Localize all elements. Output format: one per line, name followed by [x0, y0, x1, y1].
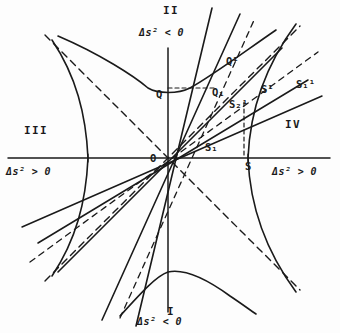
point-label-q-prime: Q¹ — [226, 55, 239, 67]
point-label-s-prime: S¹ — [261, 83, 274, 95]
interval-label-top: Δs² < 0 — [139, 27, 184, 38]
point-label-q1: Q₁ — [212, 86, 225, 98]
quadrant-label-right: IV — [285, 118, 301, 131]
line-shallow-b — [22, 96, 322, 227]
point-label-s: S — [245, 160, 251, 172]
quadrant-label-top: II — [163, 4, 179, 17]
point-label-s1: S₁ — [205, 141, 218, 153]
figure-canvas: II I III IV Δs² < 0 Δs² < 0 Δs² > 0 Δs² … — [0, 0, 340, 333]
point-label-q: Q — [156, 88, 162, 100]
quadrant-label-left: III — [24, 124, 48, 137]
asymptote-positive-slope — [45, 26, 300, 281]
interval-label-bottom: Δs² < 0 — [137, 316, 182, 327]
interval-label-left: Δs² > 0 — [6, 166, 51, 177]
point-label-s1-prime: S₁¹ — [296, 78, 315, 90]
line-steep-b — [102, 14, 240, 320]
point-label-origin: O — [150, 152, 156, 164]
point-label-s2-prime: S₂¹ — [229, 98, 248, 110]
interval-label-right: Δs² > 0 — [272, 166, 317, 177]
